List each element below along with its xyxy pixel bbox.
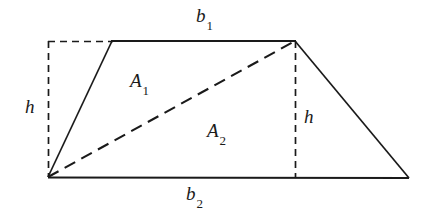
label-lower-triangle-base: A [207, 120, 219, 141]
label-height-left: h [25, 97, 35, 116]
bottom-base-line [48, 178, 409, 179]
label-height-right: h [304, 107, 314, 126]
label-lower-triangle-area: A2 [207, 121, 225, 144]
figure-canvas: b1 b2 A1 A2 h h [0, 0, 428, 215]
label-top-base: b1 [196, 6, 212, 29]
left-slant-edge [48, 41, 112, 177]
label-bottom-base-subscript: 2 [197, 196, 204, 211]
label-bottom-base: b2 [186, 184, 202, 207]
label-top-base-base: b [196, 5, 206, 26]
label-bottom-base-base: b [186, 183, 196, 204]
label-top-base-subscript: 1 [207, 18, 214, 33]
trapezoid-diagram [0, 0, 428, 215]
label-upper-triangle-subscript: 1 [143, 83, 150, 98]
diagonal-dashed-line [48, 41, 295, 177]
label-height-right-base: h [304, 106, 314, 127]
label-upper-triangle-area: A1 [130, 71, 148, 94]
label-height-left-base: h [25, 96, 35, 117]
label-lower-triangle-subscript: 2 [220, 133, 227, 148]
label-upper-triangle-base: A [130, 70, 142, 91]
